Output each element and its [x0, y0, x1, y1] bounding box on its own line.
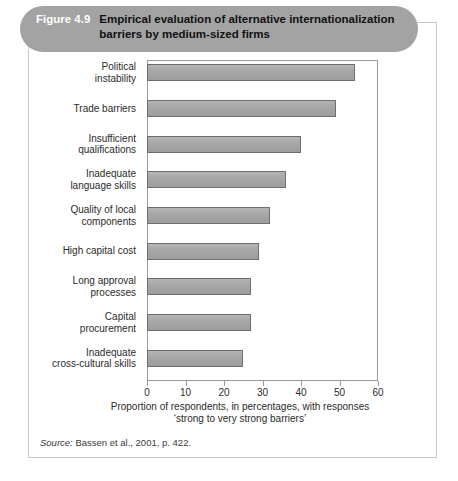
x-axis-title-line-2: ‘strong to very strong barriers’ [55, 413, 425, 425]
x-tick-label: 10 [171, 387, 201, 398]
figure-title: Empirical evaluation of alternative inte… [99, 12, 394, 42]
category-label-line: cross-cultural skills [0, 358, 136, 370]
category-label-line: procurement [0, 323, 136, 335]
bar-row [147, 350, 378, 367]
source-text: Bassen et al., 2001, p. 422. [75, 437, 191, 448]
category-label: Politicalinstability [0, 61, 136, 84]
x-tick-mark [340, 381, 341, 386]
category-label-line: Long approval [0, 275, 136, 287]
bar-row [147, 171, 378, 188]
category-label-line: language skills [0, 180, 136, 192]
x-tick-mark [224, 381, 225, 386]
category-label-line: Inadequate [0, 168, 136, 180]
bar [147, 100, 336, 117]
category-label: Inadequatelanguage skills [0, 168, 136, 191]
category-label: Capitalprocurement [0, 311, 136, 334]
bar-row [147, 314, 378, 331]
bar [147, 171, 286, 188]
category-label: Trade barriers [0, 103, 136, 115]
bar-row [147, 207, 378, 224]
category-label: Inadequatecross-cultural skills [0, 347, 136, 370]
bar-row [147, 136, 378, 153]
x-tick-label: 50 [325, 387, 355, 398]
bar [147, 278, 251, 295]
category-label-line: processes [0, 287, 136, 299]
x-tick-label: 0 [132, 387, 162, 398]
source-prefix: Source: [40, 437, 73, 448]
bar [147, 314, 251, 331]
category-label-line: Quality of local [0, 204, 136, 216]
x-axis-title: Proportion of respondents, in percentage… [55, 401, 425, 425]
category-label-line: Capital [0, 311, 136, 323]
bar-row [147, 64, 378, 81]
bar [147, 243, 259, 260]
category-label: Quality of localcomponents [0, 204, 136, 227]
bar-chart: PoliticalinstabilityTrade barriersInsuff… [0, 0, 458, 481]
x-tick-mark [301, 381, 302, 386]
category-label-line: High capital cost [0, 245, 136, 257]
bar [147, 207, 270, 224]
x-tick-label: 20 [209, 387, 239, 398]
category-label: Long approvalprocesses [0, 275, 136, 298]
bar-row [147, 100, 378, 117]
bar-row [147, 243, 378, 260]
x-axis-title-line-1: Proportion of respondents, in percentage… [55, 401, 425, 413]
bar-row [147, 278, 378, 295]
category-label: High capital cost [0, 245, 136, 257]
category-label: Insufficientqualifications [0, 133, 136, 156]
figure-number-label: Figure 4.9 [36, 12, 90, 27]
category-label-line: Insufficient [0, 133, 136, 145]
category-label-line: Trade barriers [0, 103, 136, 115]
x-tick-label: 30 [248, 387, 278, 398]
figure-header-banner: Figure 4.9 Empirical evaluation of alter… [20, 6, 418, 52]
figure-title-line-2: barriers by medium-sized firms [99, 27, 394, 42]
source-note: Source: Bassen et al., 2001, p. 422. [40, 437, 191, 448]
x-tick-mark [147, 381, 148, 386]
x-tick-label: 40 [286, 387, 316, 398]
x-tick-mark [186, 381, 187, 386]
x-tick-mark [263, 381, 264, 386]
x-tick-label: 60 [363, 387, 393, 398]
x-tick-mark [378, 381, 379, 386]
bar [147, 350, 243, 367]
category-label-line: qualifications [0, 144, 136, 156]
category-label-line: Inadequate [0, 347, 136, 359]
category-label-line: components [0, 216, 136, 228]
category-label-line: Political [0, 61, 136, 73]
category-label-line: instability [0, 73, 136, 85]
figure-title-line-1: Empirical evaluation of alternative inte… [99, 12, 394, 27]
bar [147, 136, 301, 153]
bar [147, 64, 355, 81]
